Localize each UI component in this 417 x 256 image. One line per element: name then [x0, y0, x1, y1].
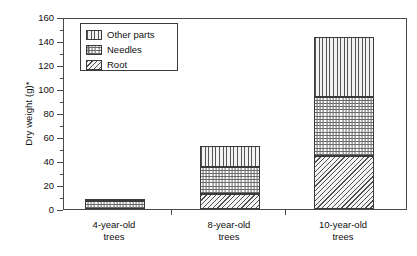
x-category-line2: trees	[59, 231, 169, 243]
y-tick-label-120: 120	[6, 61, 54, 70]
bar-segment-needles	[200, 167, 260, 194]
y-tick-label-100: 100	[6, 85, 54, 94]
y-tick-label-0: 0	[6, 205, 54, 214]
y-tick-label-160: 160	[6, 13, 54, 22]
bar-segment-other-parts	[85, 199, 145, 201]
bar-segment-other-parts	[200, 146, 260, 167]
x-category-label-4-year-old-trees: 4-year-old trees	[59, 219, 169, 242]
legend-swatch-needles-icon	[86, 45, 102, 55]
y-tick-label-80: 80	[6, 109, 54, 118]
x-tick	[285, 210, 286, 215]
legend: Other parts Needles Root	[80, 23, 178, 71]
legend-label-needles: Needles	[107, 45, 142, 55]
legend-label-root: Root	[107, 60, 127, 70]
stacked-bar-chart: Dry weight (g)* 160 140 120 100 80 60 40…	[0, 0, 417, 256]
y-tick-label-60: 60	[6, 133, 54, 142]
legend-item-other-parts: Other parts	[86, 28, 172, 42]
legend-swatch-root-icon	[86, 60, 102, 70]
y-tick-major	[57, 210, 63, 211]
x-tick	[171, 210, 172, 215]
legend-item-root: Root	[86, 58, 172, 72]
y-tick-label-140: 140	[6, 37, 54, 46]
legend-item-needles: Needles	[86, 43, 172, 57]
x-category-label-8-year-old-trees: 8-year-old trees	[174, 219, 284, 242]
legend-label-other-parts: Other parts	[107, 30, 155, 40]
legend-swatch-other-parts-icon	[86, 30, 102, 40]
bar-10-year-old-trees	[314, 17, 374, 209]
bar-8-year-old-trees	[200, 17, 260, 209]
y-tick-label-40: 40	[6, 157, 54, 166]
y-tick-label-20: 20	[6, 181, 54, 190]
bar-segment-needles	[85, 201, 145, 209]
bar-segment-needles	[314, 97, 374, 156]
x-category-line1: 8-year-old	[174, 219, 284, 231]
x-category-line2: trees	[174, 231, 284, 243]
bar-segment-root	[200, 194, 260, 209]
x-category-line1: 4-year-old	[59, 219, 169, 231]
x-category-line1: 10-year-old	[288, 219, 398, 231]
x-category-label-10-year-old-trees: 10-year-old trees	[288, 219, 398, 242]
x-category-line2: trees	[288, 231, 398, 243]
bar-segment-root	[314, 156, 374, 209]
bar-segment-other-parts	[314, 37, 374, 97]
plot-area: Other parts Needles Root	[63, 18, 407, 210]
